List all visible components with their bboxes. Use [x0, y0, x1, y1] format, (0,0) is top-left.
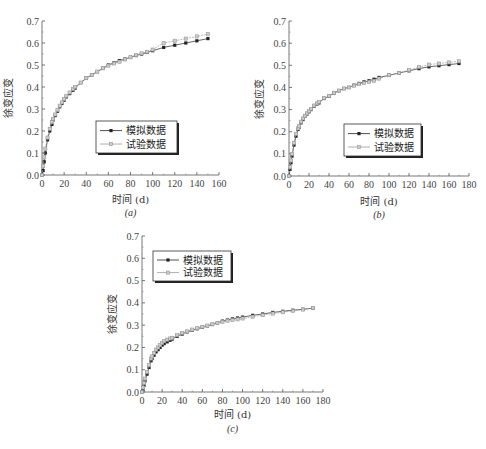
- x-tick-label: 140: [189, 178, 204, 189]
- y-tick-label: 0.6: [127, 253, 140, 264]
- y-tick-label: 0.2: [27, 126, 40, 137]
- x-tick-label: 80: [126, 178, 136, 189]
- legend: 模拟数据试验数据: [344, 124, 423, 158]
- legend: 模拟数据试验数据: [96, 121, 179, 155]
- x-tick-label: 40: [81, 178, 91, 189]
- y-tick-label: 0.3: [27, 104, 40, 115]
- legend-entry: 试验数据: [374, 141, 414, 153]
- y-tick-label: 0.2: [274, 126, 287, 137]
- x-tick-label: 60: [344, 179, 354, 190]
- y-tick-label: 0.4: [274, 82, 287, 93]
- figure-canvas: 0.00.10.20.30.40.50.60.70204060801001201…: [0, 0, 486, 449]
- x-tick-label: 160: [442, 179, 457, 190]
- x-tick-label: 40: [177, 395, 187, 406]
- y-tick-label: 0.0: [27, 170, 40, 181]
- y-tick-label: 0.2: [127, 342, 140, 353]
- y-tick-label: 0.5: [274, 60, 287, 71]
- series-experimental: [140, 306, 314, 393]
- x-tick-label: 180: [462, 179, 477, 190]
- y-axis-title: 徐变应变: [2, 78, 14, 118]
- legend-entry: 试验数据: [183, 266, 223, 278]
- y-axis-title: 徐变应变: [106, 294, 118, 334]
- x-tick-label: 20: [304, 179, 314, 190]
- x-tick-label: 100: [382, 179, 397, 190]
- series-experimental: [287, 60, 460, 178]
- x-axis-title: 时间 (d): [112, 193, 149, 205]
- legend: 模拟数据试验数据: [153, 251, 233, 283]
- y-tick-label: 0.0: [127, 387, 140, 398]
- y-axis-title: 徐变应变: [253, 79, 265, 119]
- y-tick-label: 0.5: [27, 60, 40, 71]
- y-tick-label: 0.0: [274, 171, 287, 182]
- y-tick-label: 0.3: [127, 320, 140, 331]
- y-tick-label: 0.6: [274, 38, 287, 49]
- x-tick-label: 140: [422, 179, 437, 190]
- y-tick-label: 0.7: [127, 231, 140, 242]
- panel-caption: (a): [125, 207, 137, 219]
- legend-entry: 试验数据: [126, 138, 166, 150]
- x-tick-label: 100: [145, 178, 160, 189]
- x-tick-label: 140: [275, 395, 290, 406]
- x-tick-label: 60: [197, 395, 207, 406]
- x-tick-label: 0: [140, 395, 145, 406]
- y-tick-label: 0.1: [27, 148, 40, 159]
- x-tick-label: 20: [59, 178, 69, 189]
- legend-entry: 模拟数据: [126, 124, 166, 136]
- y-tick-label: 0.1: [127, 364, 140, 375]
- y-tick-label: 0.5: [127, 275, 140, 286]
- y-tick-label: 0.4: [27, 82, 40, 93]
- x-tick-label: 60: [103, 178, 113, 189]
- x-tick-label: 80: [217, 395, 227, 406]
- panel-caption: (c): [227, 423, 239, 435]
- x-tick-label: 180: [316, 395, 331, 406]
- y-tick-label: 0.7: [27, 16, 40, 27]
- x-tick-label: 20: [157, 395, 167, 406]
- y-tick-label: 0.7: [274, 16, 287, 27]
- y-tick-label: 0.6: [27, 38, 40, 49]
- x-axis-title: 时间 (d): [360, 195, 397, 207]
- legend-entry: 模拟数据: [374, 127, 414, 139]
- y-tick-label: 0.1: [274, 148, 287, 159]
- x-tick-label: 120: [255, 395, 270, 406]
- x-tick-label: 160: [212, 178, 227, 189]
- chart-c: 0.00.10.20.30.40.50.60.70204060801001201…: [106, 231, 331, 436]
- y-tick-label: 0.3: [274, 104, 287, 115]
- chart-b: 0.00.10.20.30.40.50.60.70204060801001201…: [253, 16, 477, 222]
- x-tick-label: 40: [324, 179, 334, 190]
- x-tick-label: 160: [295, 395, 310, 406]
- x-tick-label: 0: [287, 179, 292, 190]
- y-tick-label: 0.4: [127, 297, 140, 308]
- x-tick-label: 0: [40, 178, 45, 189]
- x-axis-title: 时间 (d): [214, 408, 251, 420]
- chart-a: 0.00.10.20.30.40.50.60.70204060801001201…: [2, 16, 227, 220]
- x-tick-label: 120: [402, 179, 417, 190]
- legend-entry: 模拟数据: [183, 254, 223, 266]
- panel-caption: (b): [373, 209, 385, 221]
- x-tick-label: 120: [167, 178, 182, 189]
- x-tick-label: 80: [364, 179, 374, 190]
- x-tick-label: 100: [235, 395, 250, 406]
